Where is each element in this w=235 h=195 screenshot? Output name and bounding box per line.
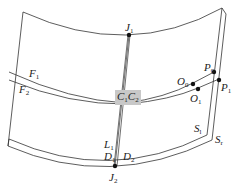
label-sl: Sl — [194, 123, 201, 136]
surface-left-edge — [8, 12, 23, 146]
label-sr: Sr — [215, 134, 223, 147]
point-o0 — [191, 82, 195, 86]
label-d2: D2 — [123, 151, 134, 164]
point-j2 — [113, 164, 117, 168]
label-o1: O1 — [190, 93, 201, 106]
label-f1: F1 — [29, 68, 39, 81]
label-d1: D1 — [104, 151, 115, 164]
label-c1-c2: C1C2 — [115, 90, 141, 105]
label-o0: O0 — [177, 76, 188, 89]
surface-top-edge — [23, 8, 222, 35]
label-j2: J2 — [109, 172, 117, 185]
label-f2: F2 — [19, 84, 29, 97]
label-p1: P1 — [221, 82, 231, 95]
label-j1: J1 — [125, 22, 133, 35]
label-p0: P0 — [204, 62, 214, 75]
surface-sr-top-edge — [222, 8, 226, 14]
point-o1 — [196, 87, 200, 91]
